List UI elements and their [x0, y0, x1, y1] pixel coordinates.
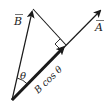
perpendicular-line	[33, 9, 66, 45]
projection-label: B cos θ	[31, 63, 64, 96]
angle-label: θ	[20, 70, 26, 81]
vector-b-label: B	[13, 15, 22, 28]
vector-a-label: A	[94, 21, 103, 34]
right-angle-marker	[55, 39, 61, 50]
vector-projection-diagram: B A θ B cos θ	[0, 0, 112, 106]
